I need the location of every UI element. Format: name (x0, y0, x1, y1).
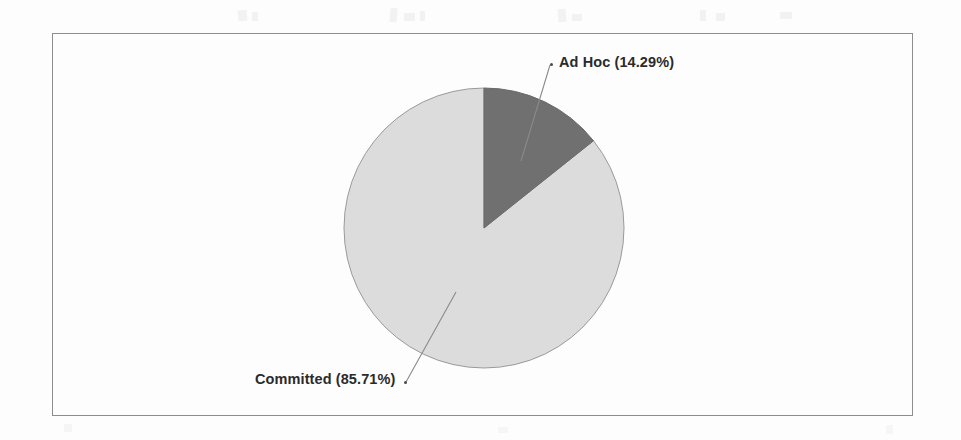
leader-dot-ad-hoc (550, 63, 553, 66)
leader-dot-committed (404, 381, 407, 384)
pie-chart: Ad Hoc (14.29%) Committed (85.71%) (0, 0, 961, 440)
pie-label-ad-hoc: Ad Hoc (14.29%) (559, 54, 674, 70)
pie-chart-svg (0, 0, 961, 440)
chart-page: Ad Hoc (14.29%) Committed (85.71%) (0, 0, 961, 440)
pie-label-committed: Committed (85.71%) (255, 371, 395, 387)
